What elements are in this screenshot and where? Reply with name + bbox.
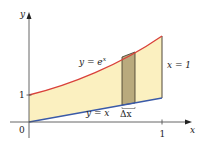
- line-y-equals-x-label: y = x: [85, 108, 109, 118]
- y-tick-label: 1: [19, 90, 25, 100]
- curve-exp-label-exponent: x: [103, 55, 107, 62]
- curve-exp-label-main: y = e: [78, 57, 103, 67]
- curve-exp-label: y = ex: [78, 55, 107, 67]
- origin-label: 0: [19, 125, 25, 135]
- y-axis-arrow-icon: [27, 12, 32, 19]
- x-tick-label: 1: [160, 129, 166, 139]
- approximating-strip: [122, 52, 135, 105]
- x-axis-arrow-icon: [185, 120, 192, 125]
- y-axis-label: y: [19, 9, 26, 19]
- x-axis-label: x: [190, 125, 195, 135]
- x-equals-1-label: x = 1: [167, 60, 191, 70]
- region-diagram: y x 0 1 1 y = ex y = x x = 1 Δx: [0, 0, 210, 150]
- delta-x-label: Δx: [120, 109, 132, 119]
- delta-x-bracket: [122, 107, 135, 109]
